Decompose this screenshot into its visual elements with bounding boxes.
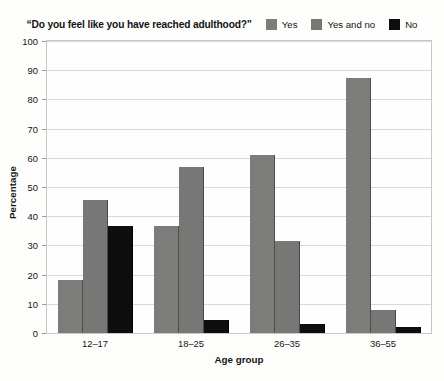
bar-no: [396, 327, 421, 333]
bar-group: [47, 41, 143, 333]
legend-title: “Do you feel like you have reached adult…: [27, 19, 252, 30]
legend-label-no: No: [405, 19, 417, 30]
y-tick-label: 50: [28, 182, 38, 193]
legend-entry-yes: Yes: [266, 19, 298, 30]
bar-yes-and-no: [371, 310, 396, 333]
legend-swatch-no: [389, 19, 400, 30]
bar-yes: [346, 78, 371, 334]
bar-group: [239, 41, 335, 333]
bar-chart: “Do you feel like you have reached adult…: [0, 0, 444, 381]
bar-group: [335, 41, 431, 333]
bar-yes-and-no: [83, 200, 108, 333]
x-tick-label: 36–55: [370, 338, 396, 349]
plot-area: [46, 40, 432, 334]
x-axis-title: Age group: [46, 354, 432, 365]
x-tick-label: 18–25: [178, 338, 204, 349]
y-tick-label: 10: [28, 298, 38, 309]
legend-swatch-yes-and-no: [311, 19, 322, 30]
x-tick-label: 26–35: [274, 338, 300, 349]
y-tick-label: 100: [22, 36, 38, 47]
y-tick-label: 90: [28, 65, 38, 76]
legend-entry-yes-and-no: Yes and no: [311, 19, 375, 30]
y-tick-label: 40: [28, 211, 38, 222]
bar-yes: [250, 155, 275, 333]
y-tick-label: 0: [33, 328, 38, 339]
y-tick-label: 60: [28, 152, 38, 163]
chart-legend: “Do you feel like you have reached adult…: [0, 13, 444, 35]
bar-no: [300, 324, 325, 333]
bar-yes-and-no: [275, 241, 300, 333]
legend-swatch-yes: [266, 19, 277, 30]
bar-yes: [58, 280, 83, 333]
bar-group: [143, 41, 239, 333]
y-tick-label: 20: [28, 269, 38, 280]
bar-no: [108, 226, 133, 333]
x-axis: 12–1718–2526–3536–55: [46, 338, 432, 354]
legend-label-yes-and-no: Yes and no: [327, 19, 375, 30]
x-tick-label: 12–17: [82, 338, 108, 349]
y-tick-label: 70: [28, 123, 38, 134]
bar-no: [204, 320, 229, 333]
bar-yes: [154, 226, 179, 333]
legend-label-yes: Yes: [282, 19, 298, 30]
legend-entry-no: No: [389, 19, 417, 30]
y-tick-label: 30: [28, 240, 38, 251]
bar-yes-and-no: [179, 167, 204, 333]
y-tick-label: 80: [28, 94, 38, 105]
y-axis: 0102030405060708090100: [0, 40, 42, 334]
